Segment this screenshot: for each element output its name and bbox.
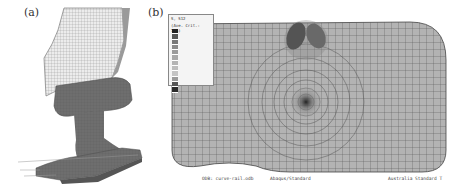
legend-colorbar xyxy=(172,29,178,81)
odb-footer-middle: Abaqus/Standard xyxy=(270,176,311,181)
odb-footer-right: Australia Standard T xyxy=(388,176,442,181)
legend-header-variable: S, S12 xyxy=(169,15,213,22)
odb-footer-left: ODB: curve-rail.odb xyxy=(202,176,253,181)
wheel-rail-mesh-figure xyxy=(0,0,160,192)
contour-legend: S, S12 (Ave. Crit.: 75%) xyxy=(168,14,214,86)
